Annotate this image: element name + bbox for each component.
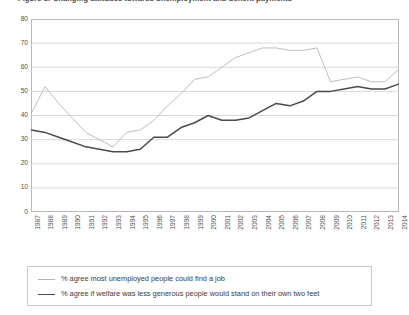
y-axis-ticks: 80706050403020100 <box>0 0 28 240</box>
y-tick-label-30: 30 <box>2 136 28 143</box>
y-tick-label-70: 70 <box>2 40 28 47</box>
legend-swatch-series-0 <box>38 279 55 280</box>
x-tick-label-1997: 1997 <box>170 215 177 230</box>
y-tick-label-40: 40 <box>2 112 28 119</box>
x-tick-label-1993: 1993 <box>116 215 123 230</box>
x-tick-label-2000: 2000 <box>211 215 218 230</box>
x-tick-label-2007: 2007 <box>306 215 313 230</box>
line-chart-canvas <box>31 19 399 212</box>
x-tick-label-1987: 1987 <box>35 215 42 230</box>
x-tick-label-1991: 1991 <box>89 215 96 230</box>
x-tick-label-2008: 2008 <box>320 215 327 230</box>
x-tick-label-1994: 1994 <box>130 215 137 230</box>
x-tick-label-1996: 1996 <box>157 215 164 230</box>
legend-label-series-1: % agree if welfare was less generous peo… <box>61 290 319 297</box>
y-tick-label-20: 20 <box>2 160 28 167</box>
x-tick-label-2009: 2009 <box>334 215 341 230</box>
plot-area: 80706050403020100 1987198819891990199119… <box>0 0 409 262</box>
x-axis-ticks: 1987198819891990199119921993199419951996… <box>31 213 399 253</box>
x-tick-label-1990: 1990 <box>75 215 82 230</box>
x-tick-label-2005: 2005 <box>279 215 286 230</box>
x-tick-label-2006: 2006 <box>293 215 300 230</box>
x-tick-label-2004: 2004 <box>266 215 273 230</box>
x-tick-label-2003: 2003 <box>252 215 259 230</box>
y-tick-label-80: 80 <box>2 16 28 23</box>
figure-container: Figure 3: Changing attitudes towards une… <box>0 0 409 315</box>
x-tick-label-2011: 2011 <box>361 215 368 229</box>
legend-item-unemployed-could-find-job: % agree most unemployed people could fin… <box>38 273 225 285</box>
x-tick-label-2014: 2014 <box>402 215 409 230</box>
x-tick-label-1988: 1988 <box>48 215 55 230</box>
legend-swatch-series-1 <box>38 294 55 295</box>
y-tick-label-0: 0 <box>2 209 28 216</box>
series-line-1 <box>32 84 399 152</box>
legend-item-welfare-less-generous: % agree if welfare was less generous peo… <box>38 288 319 300</box>
legend-label-series-0: % agree most unemployed people could fin… <box>61 275 225 282</box>
series-line-0 <box>32 48 399 147</box>
x-tick-label-2013: 2013 <box>388 215 395 230</box>
y-tick-label-50: 50 <box>2 88 28 95</box>
x-tick-label-1998: 1998 <box>184 215 191 230</box>
x-tick-label-2010: 2010 <box>347 215 354 230</box>
chart-legend: % agree most unemployed people could fin… <box>27 266 372 306</box>
x-tick-label-1999: 1999 <box>198 215 205 230</box>
x-tick-label-2012: 2012 <box>374 215 381 230</box>
y-tick-label-10: 10 <box>2 184 28 191</box>
x-tick-label-1995: 1995 <box>143 215 150 230</box>
x-tick-label-1992: 1992 <box>102 215 109 230</box>
x-tick-label-1989: 1989 <box>62 215 69 230</box>
y-tick-label-60: 60 <box>2 64 28 71</box>
x-tick-label-2002: 2002 <box>238 215 245 230</box>
x-tick-label-2001: 2001 <box>225 215 232 230</box>
